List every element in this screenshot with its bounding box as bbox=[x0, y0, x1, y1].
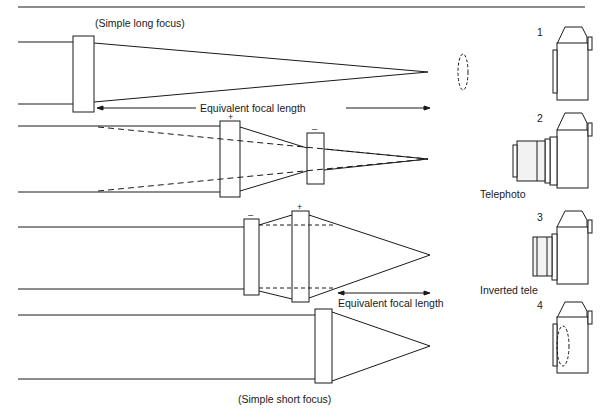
lens-3-negative bbox=[244, 219, 259, 295]
virtual-lens-ellipse bbox=[458, 54, 468, 90]
label-equivalent-focal-length-3: Equivalent focal length bbox=[338, 297, 444, 309]
camera-1-icon bbox=[553, 27, 592, 100]
optics-diagram bbox=[0, 0, 607, 418]
lens-4 bbox=[315, 309, 332, 383]
lens-1 bbox=[73, 36, 94, 112]
caption-inverted-tele: Inverted tele bbox=[480, 284, 538, 296]
lens-sign-2a: + bbox=[228, 113, 233, 122]
diagram-2-telephoto bbox=[18, 121, 428, 197]
diagram-4-simple-short-focus bbox=[18, 309, 430, 383]
lens-2-positive bbox=[220, 121, 240, 197]
camera-number-4: 4 bbox=[537, 299, 543, 311]
lens-sign-2b: – bbox=[312, 125, 317, 134]
camera-number-3: 3 bbox=[537, 211, 543, 223]
caption-telephoto: Telephoto bbox=[480, 188, 526, 200]
diagram-1-simple-long-focus bbox=[18, 36, 468, 112]
camera-2-telephoto-icon bbox=[513, 113, 592, 188]
camera-number-1: 1 bbox=[537, 26, 543, 38]
label-simple-short-focus: (Simple short focus) bbox=[238, 393, 331, 405]
camera-number-2: 2 bbox=[537, 112, 543, 124]
lens-sign-3a: – bbox=[248, 211, 253, 220]
lens-sign-3b: + bbox=[297, 203, 302, 212]
label-simple-long-focus: (Simple long focus) bbox=[95, 17, 185, 29]
camera-4-icon bbox=[553, 302, 592, 373]
lens-2-negative bbox=[307, 133, 324, 184]
label-equivalent-focal-length-1: Equivalent focal length bbox=[198, 102, 308, 114]
diagram-3-inverted-tele bbox=[18, 211, 430, 302]
